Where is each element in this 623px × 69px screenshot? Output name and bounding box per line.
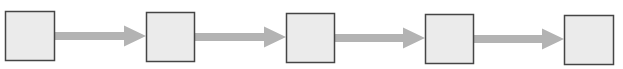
node-box-5 [565, 16, 614, 65]
arrow-3 [335, 28, 425, 49]
arrow-1 [55, 26, 146, 47]
arrow-4 [474, 29, 564, 50]
node-box-3 [287, 14, 335, 63]
flow-diagram [0, 0, 623, 69]
arrow-right-icon [55, 26, 146, 47]
arrow-right-icon [474, 29, 564, 50]
node-box-4 [426, 15, 474, 64]
node-box-2 [147, 13, 195, 62]
arrow-2 [195, 27, 286, 48]
node-box-1 [6, 12, 55, 61]
arrow-right-icon [195, 27, 286, 48]
arrow-right-icon [335, 28, 425, 49]
